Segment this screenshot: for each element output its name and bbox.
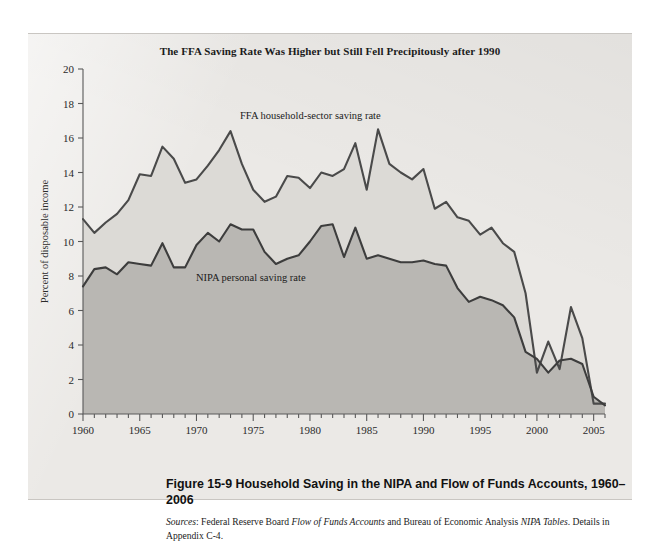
figure-caption-text: Household Saving in the NIPA and Flow of…: [166, 477, 625, 507]
x-tick-label: 1985: [356, 424, 379, 436]
y-tick-label: 8: [69, 270, 75, 282]
y-tick-label: 14: [63, 167, 75, 179]
x-tick-marks: [83, 414, 605, 421]
ffa-series-annotation: FFA household-sector saving rate: [240, 110, 381, 121]
y-tick-label: 4: [69, 339, 75, 351]
figure-sources: Sources: Federal Reserve Board Flow of F…: [166, 515, 648, 543]
x-tick-label: 1970: [185, 424, 208, 436]
sources-text-2: and Bureau of Economic Analysis: [385, 516, 521, 527]
y-axis-title: Percent of disposable income: [39, 179, 50, 303]
chart-plot-area: 02468101214161820 1960196519701975198019…: [28, 34, 632, 501]
caption-heading: Figure 15-9 Household Saving in the NIPA…: [166, 476, 648, 508]
y-tick-label: 18: [63, 98, 75, 110]
sources-text-1: : Federal Reserve Board: [196, 516, 291, 527]
x-tick-label: 1965: [129, 424, 152, 436]
x-tick-label: 1975: [242, 424, 265, 436]
y-tick-label: 2: [69, 374, 75, 386]
sources-italic-1: Flow of Funds Accounts: [291, 516, 384, 527]
y-tick-label: 6: [69, 305, 75, 317]
saving-rate-area-chart: 02468101214161820 1960196519701975198019…: [28, 34, 632, 501]
x-tick-label: 1960: [72, 424, 95, 436]
y-tick-label: 20: [63, 63, 75, 75]
sources-italic-2: NIPA Tables: [521, 516, 568, 527]
y-tick-label: 12: [63, 201, 74, 213]
x-tick-label: 1990: [412, 424, 435, 436]
y-tick-label: 10: [63, 236, 75, 248]
figure-panel: The FFA Saving Rate Was Higher but Still…: [28, 33, 632, 500]
x-tick-label: 1995: [469, 424, 492, 436]
x-tick-label: 1980: [299, 424, 322, 436]
y-tick-label: 16: [63, 132, 75, 144]
y-tick-label: 0: [69, 408, 75, 420]
y-tick-marks: [78, 69, 83, 414]
figure-caption: Figure 15-9 Household Saving in the NIPA…: [166, 476, 648, 543]
y-tick-labels: 02468101214161820: [63, 63, 75, 420]
x-tick-label: 2005: [583, 424, 606, 436]
x-tick-label: 2000: [526, 424, 549, 436]
nipa-series-annotation: NIPA personal saving rate: [196, 272, 306, 283]
figure-number: Figure 15-9: [166, 477, 232, 491]
area-fill-layer: [83, 129, 605, 414]
x-tick-labels: 1960196519701975198019851990199520002005: [72, 424, 605, 436]
sources-label: Sources: [166, 516, 196, 527]
